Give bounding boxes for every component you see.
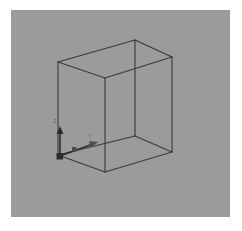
origin-handle[interactable]: [57, 153, 64, 160]
axis-mid-handle[interactable]: [72, 147, 77, 152]
application-root: Z Y: [0, 0, 242, 231]
viewport-canvas[interactable]: Z Y: [11, 10, 230, 217]
axis-gizmo[interactable]: Z Y: [53, 118, 98, 160]
cube-edge-bottom-front-right: [105, 152, 172, 172]
scene-svg[interactable]: Z Y: [11, 10, 230, 217]
cube-edge-top-front-left: [58, 62, 105, 78]
cube-edge-top-front-right: [105, 57, 172, 78]
cube-edge-bottom-back-right: [135, 136, 172, 152]
cube-edge-top-back-left: [58, 40, 135, 62]
z-axis-label: Z: [53, 118, 56, 124]
y-axis-label: Y: [88, 133, 92, 139]
cube-edge-bottom-front-left: [58, 155, 105, 172]
cube-edge-top-back-right: [135, 40, 172, 57]
cube-wireframe[interactable]: [58, 40, 172, 172]
